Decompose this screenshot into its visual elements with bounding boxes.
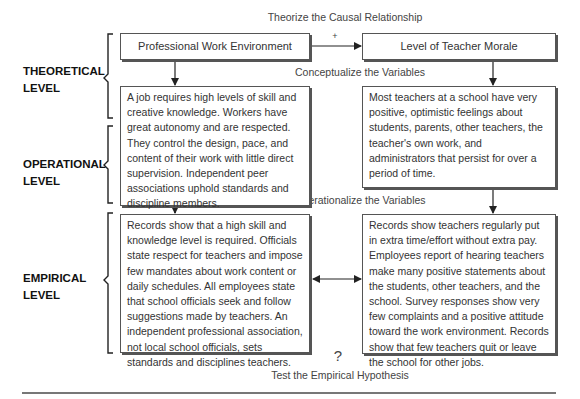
bracket-theoretical [104, 34, 113, 118]
dependent-empirical-measure: Records show teachers regularly put in e… [362, 214, 556, 354]
level-label-empirical: EMPIRICAL LEVEL [23, 270, 86, 304]
level-label-line: LEVEL [23, 287, 86, 304]
dependent-variable-box: Level of Teacher Morale [362, 33, 556, 60]
level-label-operational: OPERATIONAL LEVEL [23, 156, 106, 190]
conceptualize-caption: Conceptualize the Variables [265, 66, 455, 78]
level-label-line: THEORETICAL [23, 63, 105, 80]
level-label-line: LEVEL [23, 80, 105, 97]
question-mark: ? [328, 347, 348, 364]
level-label-theoretical: THEORETICAL LEVEL [23, 63, 105, 97]
dependent-conceptual-definition: Most teachers at a school have very posi… [362, 86, 556, 188]
independent-empirical-measure: Records show that a high skill and knowl… [120, 214, 310, 353]
independent-variable-box: Professional Work Environment [120, 33, 310, 60]
test-hypothesis-caption: Test the Empirical Hypothesis [240, 369, 440, 381]
relationship-sign: + [330, 31, 340, 41]
level-label-line: OPERATIONAL [23, 156, 106, 173]
bracket-empirical [104, 213, 113, 353]
theorize-caption: Theorize the Causal Relationship [245, 11, 445, 23]
level-label-line: LEVEL [23, 173, 106, 190]
independent-conceptual-definition: A job requires high levels of skill and … [120, 86, 310, 206]
level-label-line: EMPIRICAL [23, 270, 86, 287]
